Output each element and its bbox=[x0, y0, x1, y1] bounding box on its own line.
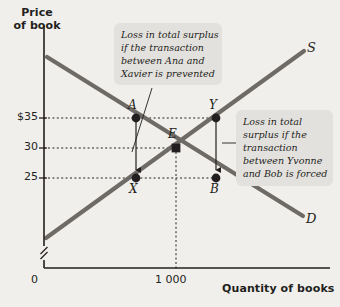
point-label-y: Y bbox=[209, 99, 217, 112]
callout-ana-xavier: Loss in total surplus if the transaction… bbox=[114, 23, 222, 85]
y-axis-title-line2: of book bbox=[6, 19, 68, 32]
callout-1-line-1: Loss in total surplus bbox=[121, 28, 215, 41]
point-y bbox=[212, 114, 221, 123]
point-label-x: X bbox=[129, 183, 138, 196]
y-axis-title: Price of book bbox=[6, 6, 68, 33]
supply-demand-figure: Price of book Quantity of books $35 30 2… bbox=[0, 0, 340, 307]
point-a bbox=[132, 114, 141, 123]
point-e bbox=[172, 144, 181, 153]
tick-marks bbox=[39, 118, 47, 178]
axis-break-icon bbox=[41, 246, 49, 260]
callout-1-line-3: between Ana and bbox=[121, 54, 215, 67]
callout-2-line-5: and Bob is forced bbox=[243, 167, 326, 180]
y-tick-label-35: $35 bbox=[0, 111, 38, 123]
callout-1-line-2: if the transaction bbox=[121, 41, 215, 54]
supply-curve-label: S bbox=[307, 41, 316, 56]
callout-1-line-4: Xavier is prevented bbox=[121, 67, 215, 80]
y-axis-title-line1: Price bbox=[6, 6, 68, 19]
y-tick-label-30: 30 bbox=[0, 141, 38, 153]
callout-2-line-3: transaction bbox=[243, 141, 326, 154]
point-label-b: B bbox=[210, 183, 219, 196]
x-tick-label-1000: 1 000 bbox=[155, 274, 187, 286]
point-label-e: E bbox=[168, 128, 177, 141]
callout-2-line-2: surplus if the bbox=[243, 128, 326, 141]
origin-label: 0 bbox=[31, 274, 38, 286]
demand-curve-label: D bbox=[306, 212, 316, 227]
callout-yvonne-bob: Loss in total surplus if the transaction… bbox=[236, 110, 333, 186]
y-tick-label-25: 25 bbox=[0, 171, 38, 183]
callout-2-line-1: Loss in total bbox=[243, 115, 326, 128]
point-label-a: A bbox=[128, 99, 137, 112]
x-axis-title: Quantity of books bbox=[222, 283, 334, 295]
callout-2-line-4: between Yvonne bbox=[243, 154, 326, 167]
